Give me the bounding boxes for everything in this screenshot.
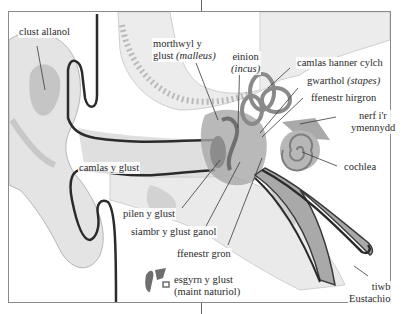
label-round-window: ffenestr gron — [176, 248, 232, 260]
label-ossicles-actual-size: esgyrn y glust (maint naturiol) — [173, 274, 241, 298]
label-incus-welsh: einion — [231, 51, 260, 63]
label-outer-ear: clust allanol — [18, 26, 71, 38]
label-malleus-text: glust — [153, 50, 176, 61]
label-auditory-nerve-line2: ymennydd — [351, 122, 395, 134]
ossicles-icon — [145, 268, 169, 292]
label-ossicles-line1: esgyrn y glust — [174, 274, 240, 286]
label-eustachian-tube: tiwb Eustachio — [348, 281, 391, 305]
label-stapes-text: gwarthol — [307, 75, 347, 86]
eardrum-shape — [210, 136, 226, 168]
label-ear-canal: camlas y glust — [78, 162, 140, 174]
label-incus-latin: (incus) — [231, 63, 260, 74]
label-auditory-nerve-line1: nerf i'r — [351, 110, 395, 122]
label-incus: einion (incus) — [230, 51, 261, 75]
label-auditory-nerve: nerf i'r ymennydd — [350, 110, 396, 134]
label-oval-window: ffenestr hirgron — [310, 92, 377, 104]
label-malleus: morthwyl y glust (malleus) — [152, 38, 217, 62]
label-malleus-line2: glust (malleus) — [153, 50, 216, 62]
label-eustachian-line1: tiwb — [349, 281, 390, 293]
label-eardrum: pilen y glust — [122, 208, 176, 220]
label-stapes-latin: (stapes) — [347, 75, 380, 86]
label-semicircular-canal: camlas hanner cylch — [296, 57, 384, 69]
label-eustachian-line2: Eustachio — [349, 293, 390, 305]
label-malleus-latin: (malleus) — [176, 50, 216, 61]
label-stapes: gwarthol (stapes) — [306, 75, 381, 87]
cochlea-shape — [280, 130, 320, 170]
label-malleus-line1: morthwyl y — [153, 38, 216, 50]
label-incus-latin-wrap: (incus) — [231, 63, 260, 75]
label-middle-ear-chamber: siambr y glust ganol — [130, 226, 217, 238]
label-ossicles-line2: (maint naturiol) — [174, 286, 240, 298]
label-cochlea: cochlea — [343, 161, 377, 173]
